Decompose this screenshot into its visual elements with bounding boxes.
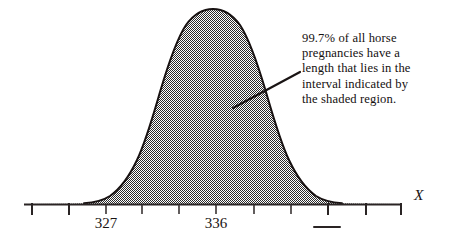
blank-answer-slot[interactable] [313,226,341,228]
annotation-line-4: interval indicated by [302,77,448,92]
normal-distribution-figure: 99.7% of all horse pregnancies have a le… [0,0,455,244]
axis-minor-ticks [106,205,291,214]
annotation-line-2: pregnancies have a [302,46,448,61]
annotation-text: 99.7% of all horse pregnancies have a le… [302,31,448,107]
tick-label-336: 336 [205,215,228,232]
annotation-line-1: 99.7% of all horse [302,31,448,46]
annotation-line-5: the shaded region. [302,92,448,107]
tick-label-327: 327 [95,215,118,232]
annotation-line-3: length that lies in the [302,61,448,76]
x-axis-variable-label: X [414,186,423,204]
